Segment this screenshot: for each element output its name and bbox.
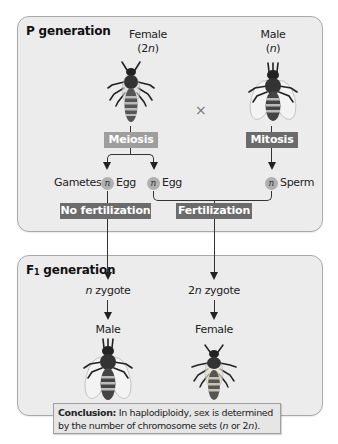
meiosis-label: Meiosis — [104, 132, 158, 148]
bee-female-icon — [106, 60, 156, 126]
no-fertilization-label: No fertilization — [60, 203, 151, 219]
f1-generation-title: F1 generation — [26, 263, 115, 277]
arrow-down-icon — [104, 272, 112, 280]
arrow-down-icon — [104, 312, 112, 320]
mitosis-label: Mitosis — [246, 132, 298, 148]
zygote-num: 2 — [188, 284, 195, 297]
join-bracket — [153, 191, 272, 201]
title-prefix: F — [26, 263, 34, 277]
2n-zygote-label: 2n zygote — [179, 284, 249, 297]
bee-male-icon — [245, 62, 301, 126]
conclusion-heading: Conclusion: — [58, 407, 116, 418]
arrow-down-icon — [150, 162, 158, 170]
haploid-badge: n — [101, 177, 114, 190]
conclusion-box: Conclusion: In haplodiploidy, sex is det… — [53, 403, 281, 434]
split-bracket — [107, 154, 154, 164]
zygote-text: zygote — [92, 284, 130, 297]
bee-female-icon — [190, 343, 238, 403]
male-ploidy: (n) — [243, 42, 303, 55]
zygote-text: zygote — [201, 284, 239, 297]
arrow-down-icon — [210, 312, 218, 320]
conclusion-text: or 2 — [228, 420, 248, 431]
bee-male-icon — [80, 338, 136, 404]
gametes-label: Gametes — [54, 176, 101, 189]
egg-label: Egg — [116, 176, 136, 189]
sperm-label: Sperm — [280, 176, 314, 189]
ploidy-prefix: (2 — [137, 42, 148, 55]
haploid-badge: n — [147, 177, 160, 190]
f1-female-label: Female — [184, 323, 244, 336]
ploidy-suffix: ) — [155, 42, 159, 55]
ploidy-var: n — [148, 42, 155, 55]
female-label: Female — [118, 28, 178, 41]
f1-male-label: Male — [78, 323, 138, 336]
arrow-down-icon — [268, 162, 276, 170]
conclusion-text: ). — [254, 420, 260, 431]
cross-symbol: × — [195, 102, 207, 118]
ploidy-suffix: ) — [276, 42, 280, 55]
fertilization-label: Fertilization — [176, 203, 252, 219]
f1-generation-panel: F1 generation — [17, 255, 323, 416]
female-ploidy: (2n) — [118, 42, 178, 55]
male-label: Male — [243, 28, 303, 41]
haploid-badge: n — [265, 177, 278, 190]
n-zygote-label: n zygote — [78, 284, 138, 297]
arrow-down-icon — [210, 272, 218, 280]
egg-label: Egg — [162, 176, 182, 189]
p-generation-title: P generation — [26, 24, 111, 38]
arrow-down-icon — [103, 162, 111, 170]
